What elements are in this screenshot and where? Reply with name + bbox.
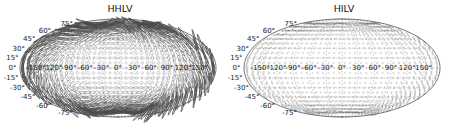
lat-tick-hilv-4: 15° — [230, 54, 242, 62]
lat-tick-hhlv-2: 45° — [23, 35, 35, 43]
lon-tick-hhlv-2: -90° — [62, 64, 77, 72]
lat-tick-hilv-5: 0° — [233, 64, 241, 72]
lat-tick-hilv-10: -75° — [282, 109, 297, 117]
lat-tick-hilv-2: 45° — [247, 35, 259, 43]
lat-tick-hhlv-5: 0° — [9, 64, 17, 72]
lon-tick-hilv-10: 150° — [415, 64, 432, 72]
lon-tick-hhlv-10: 150° — [191, 64, 208, 72]
mollweide-plot-hilv[interactable]: HILV 75°60°45°30°15°0°-15°-30°-45°-60°-7… — [224, 0, 448, 131]
lon-tick-hhlv-6: 30° — [128, 64, 140, 72]
mollweide-plot-hhlv[interactable]: HHLV 75°60°45°30°15°0°-15°-30°-45°-60°-7… — [0, 0, 224, 131]
lon-tick-hilv-2: -90° — [286, 64, 301, 72]
panel-title-hhlv: HHLV — [107, 3, 133, 14]
lat-tick-hhlv-9: -60° — [36, 102, 51, 110]
lat-tick-hhlv-1: 60° — [39, 27, 51, 35]
lon-tick-hhlv-1: -120° — [43, 64, 62, 72]
lon-tick-hhlv-4: -30° — [94, 64, 109, 72]
figure-root: HHLV 75°60°45°30°15°0°-15°-30°-45°-60°-7… — [0, 0, 449, 131]
lat-tick-hilv-0: 75° — [285, 20, 297, 28]
lat-tick-hhlv-0: 75° — [61, 20, 73, 28]
lon-tick-hilv-9: 120° — [399, 64, 416, 72]
lon-tick-hhlv-3: -60° — [78, 64, 93, 72]
lon-tick-hhlv-5: 0° — [114, 64, 122, 72]
lon-tick-hhlv-9: 120° — [175, 64, 192, 72]
lon-tick-hilv-8: 90° — [385, 64, 397, 72]
panel-hilv: HILV 75°60°45°30°15°0°-15°-30°-45°-60°-7… — [224, 0, 448, 131]
lon-tick-hhlv-7: 60° — [144, 64, 156, 72]
lat-tick-hilv-3: 30° — [236, 45, 248, 53]
lon-tick-hilv-6: 30° — [352, 64, 364, 72]
lat-tick-hilv-7: -30° — [234, 84, 249, 92]
lat-tick-hilv-9: -60° — [260, 102, 275, 110]
tick-labels-hilv: 75°60°45°30°15°0°-15°-30°-45°-60°-75°-15… — [228, 20, 432, 117]
lat-tick-hhlv-3: 30° — [12, 45, 24, 53]
lat-tick-hhlv-4: 15° — [6, 54, 18, 62]
lon-tick-hilv-1: -120° — [267, 64, 286, 72]
lon-tick-hhlv-8: 90° — [161, 64, 173, 72]
lat-tick-hhlv-7: -30° — [10, 84, 25, 92]
lat-tick-hhlv-8: -45° — [21, 93, 36, 101]
panel-title-hilv: HILV — [334, 3, 355, 14]
lon-tick-hilv-4: -30° — [318, 64, 333, 72]
lat-tick-hhlv-10: -75° — [58, 109, 73, 117]
lon-tick-hilv-7: 60° — [368, 64, 380, 72]
lon-tick-hilv-5: 0° — [338, 64, 346, 72]
panel-hhlv: HHLV 75°60°45°30°15°0°-15°-30°-45°-60°-7… — [0, 0, 224, 131]
lat-tick-hilv-8: -45° — [245, 93, 260, 101]
lon-tick-hilv-3: -60° — [302, 64, 317, 72]
lat-tick-hilv-6: -15° — [228, 74, 243, 82]
lat-tick-hhlv-6: -15° — [4, 74, 19, 82]
lat-tick-hilv-1: 60° — [263, 27, 275, 35]
